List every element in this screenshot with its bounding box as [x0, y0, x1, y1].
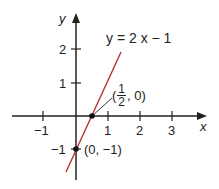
x-tick-label-neg1: −1 — [34, 124, 49, 137]
point-label-x-intercept: ( 1 2 , 0) — [112, 83, 146, 108]
fraction: 1 2 — [117, 83, 126, 108]
plot-area — [0, 0, 219, 189]
leader-line — [92, 98, 112, 116]
x-tick-label-2: 2 — [136, 124, 143, 137]
y-tick-label-2: 2 — [59, 43, 66, 56]
y-tick-label-1: 1 — [59, 77, 66, 90]
equation-label: y = 2 x − 1 — [106, 31, 171, 45]
point-label-y-intercept: (0, −1) — [84, 143, 122, 156]
y-tick-label-neg1: −1 — [51, 143, 66, 156]
y-axis-arrow-icon — [72, 13, 80, 23]
paren-close: , 0) — [127, 89, 146, 102]
point-x-intercept — [89, 113, 95, 119]
x-tick-label-3: 3 — [168, 124, 175, 137]
x-axis-label: x — [200, 120, 207, 133]
x-tick-label-1: 1 — [104, 124, 111, 137]
paren-open: ( — [112, 89, 116, 102]
fraction-denominator: 2 — [118, 96, 125, 108]
point-y-intercept — [73, 146, 79, 152]
y-axis-label: y — [59, 12, 66, 25]
